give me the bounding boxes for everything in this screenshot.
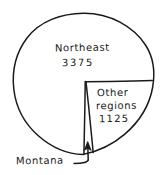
slice-label-other-regions-line2: regions	[96, 100, 137, 113]
pie-chart-figure: Northeast 3375 Other regions 1125 Montan…	[0, 0, 168, 175]
pie-chart-drawing	[0, 0, 168, 175]
slice-value-northeast: 3375	[62, 57, 94, 69]
slice-label-montana: Montana	[16, 155, 64, 168]
slice-value-other-regions: 1125	[99, 113, 129, 125]
montana-wedge-right-edge	[86, 82, 93, 153]
slice-label-other-regions-line1: Other	[97, 87, 129, 99]
sector-boundary-horizontal	[86, 81, 153, 82]
pie-circle-outline	[13, 13, 153, 154]
montana-callout-leader-line	[74, 160, 88, 163]
slice-label-northeast: Northeast	[55, 42, 110, 55]
montana-wedge-left-edge	[84, 82, 85, 154]
